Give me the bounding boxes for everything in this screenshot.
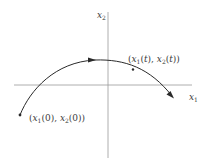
initial-point-marker [19, 114, 22, 117]
initial-point-label: (x1(0), x2(0)) [29, 114, 85, 124]
paren-comma: ), [148, 54, 157, 64]
arg-zero: (0), [41, 113, 59, 123]
x1-subscript: 1 [194, 96, 198, 103]
trajectory-end-arrow-icon [167, 91, 175, 99]
current-point-marker [132, 68, 134, 70]
arg-zero-close: (0)) [69, 113, 85, 123]
direction-arrow-icon [88, 58, 96, 63]
x2-axis-label: x2 [97, 11, 106, 21]
x2-subscript: 2 [102, 14, 106, 21]
x1-axis-label: x1 [189, 93, 198, 103]
phase-plane-diagram [0, 0, 209, 166]
paren-close: )) [173, 54, 180, 64]
current-point-label: (x1(t), x2(t)) [128, 55, 180, 65]
trajectory-curve [20, 60, 172, 115]
